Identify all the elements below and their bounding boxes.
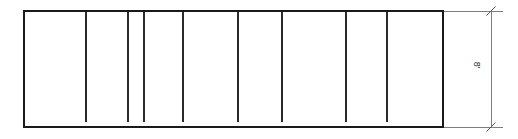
dimension-extension-lines <box>443 11 503 127</box>
dimension-line-group <box>487 7 496 132</box>
drawing-canvas: 8' <box>0 0 518 139</box>
vertical-dividers <box>86 12 387 122</box>
height-dimension-label: 8' <box>472 62 482 69</box>
technical-drawing <box>0 0 518 139</box>
